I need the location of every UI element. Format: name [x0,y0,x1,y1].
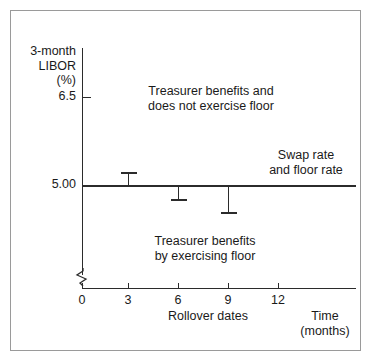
y-axis-line [82,48,83,275]
x-tick-mark-0 [82,283,83,289]
annotation-below-line: Treasurer benefits by exercising floor [130,234,280,264]
y-axis-title: 3-month LIBOR (%) [0,44,76,88]
libor-marker-cap-month-6 [171,199,187,201]
x-tick-label-12: 12 [263,293,293,307]
x-tick-mark-12 [278,283,279,289]
x-tick-mark-9 [228,283,229,289]
annotation-above-line: Treasurer benefits and does not exercise… [128,84,294,114]
x-tick-label-0: 0 [67,293,97,307]
swap-and-floor-rate-line [83,185,356,187]
x-tick-mark-3 [128,283,129,289]
libor-marker-stem-month-9 [228,186,230,214]
x-tick-label-3: 3 [113,293,143,307]
y-tick-mark-6.5 [83,97,91,98]
libor-marker-cap-month-9 [221,212,237,214]
figure-canvas: 3-month LIBOR (%) 6.5 5.00 0 3 6 9 12 Ro… [0,0,372,363]
x-axis-unit-label: Time (months) [292,309,358,338]
y-tick-label-6.5: 6.5 [59,90,76,103]
libor-marker-month-6 [178,186,179,201]
libor-marker-month-3 [128,172,129,186]
x-tick-label-9: 9 [213,293,243,307]
x-axis-title: Rollover dates [168,309,248,323]
swap-and-floor-rate-label: Swap rate and floor rate [256,148,356,178]
x-tick-mark-6 [178,283,179,289]
x-tick-label-6: 6 [163,293,193,307]
libor-marker-stem-month-3 [128,172,130,186]
x-axis-line [82,288,356,289]
libor-marker-month-9 [228,186,229,214]
y-tick-label-5.00: 5.00 [52,178,76,191]
